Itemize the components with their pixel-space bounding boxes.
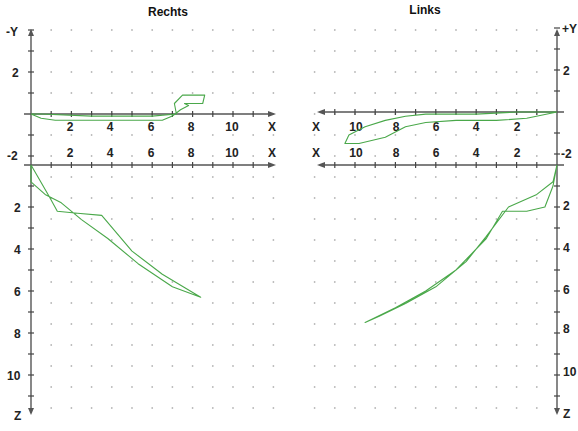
- chart-canvas: Rechts Links -Y 2 -2 2 4 6 8 10 X 2 4 6 …: [0, 0, 578, 431]
- links-ticks: [335, 28, 560, 396]
- links-y-tick-neg2: -2: [561, 147, 572, 161]
- trace-line: [365, 165, 557, 323]
- left-arrow-icon: [317, 109, 325, 115]
- rechts-x-tick: 2: [67, 146, 74, 160]
- rechts-x-tick: 6: [148, 146, 155, 160]
- links-x-tick: 6: [433, 146, 440, 160]
- rechts-y-tick-2: 2: [12, 66, 19, 80]
- links-z-tick: 4: [563, 241, 570, 255]
- links-z-tick: 6: [563, 283, 570, 297]
- links-z-tick: 2: [563, 199, 570, 213]
- links-x-tick: 10: [349, 146, 363, 160]
- rechts-x-tick: 8: [188, 120, 195, 134]
- right-arrow-icon: [268, 111, 276, 117]
- links-x-axis-name: X: [312, 120, 320, 134]
- rechts-x-tick: 10: [225, 120, 239, 134]
- links-z-tick: 8: [563, 322, 570, 336]
- links-panel: +Y 2 -2 X 10 8 6 4 2 X 10 8 6 4 2 2 4 6 …: [312, 22, 577, 421]
- rechts-x-axis-name: X: [268, 120, 276, 134]
- links-y-tick-2: 2: [563, 64, 570, 78]
- rechts-y-tick-neg2: -2: [7, 149, 18, 163]
- down-arrow-icon: [28, 408, 34, 415]
- trace-line: [345, 112, 557, 144]
- rechts-x-tick: 8: [188, 146, 195, 160]
- rechts-z-tick: 4: [14, 243, 21, 257]
- rechts-z-tick: 2: [14, 201, 21, 215]
- chart-title-rechts: Rechts: [148, 5, 188, 19]
- rechts-ticks: [28, 30, 253, 396]
- rechts-z-axis-name: Z: [14, 409, 21, 423]
- up-arrow-icon: [554, 29, 560, 36]
- rechts-x-tick: 10: [225, 146, 239, 160]
- trace-line: [31, 95, 205, 120]
- rechts-z-tick: 6: [14, 285, 21, 299]
- left-arrow-icon: [317, 162, 325, 168]
- rechts-z-tick: 8: [14, 327, 21, 341]
- rechts-panel: -Y 2 -2 2 4 6 8 10 X 2 4 6 8 10 X 2 4 6 …: [6, 25, 276, 423]
- chart-title-links: Links: [409, 3, 441, 17]
- links-x-tick: 4: [473, 120, 480, 134]
- rechts-x-axis-name: X: [268, 146, 276, 160]
- links-z-tick: 10: [563, 365, 577, 379]
- links-x-tick: 2: [514, 146, 521, 160]
- links-x-tick: 2: [514, 120, 521, 134]
- rechts-x-tick: 2: [67, 120, 74, 134]
- rechts-x-tick: 6: [148, 120, 155, 134]
- grid-dots: [50, 29, 537, 409]
- links-y-axis-name: +Y: [562, 22, 577, 36]
- down-arrow-icon: [554, 408, 560, 415]
- links-z-axis-name: Z: [563, 407, 570, 421]
- rechts-x-tick: 4: [107, 120, 114, 134]
- trace-line: [31, 165, 201, 297]
- links-x-axis-name: X: [312, 146, 320, 160]
- right-arrow-icon: [268, 162, 276, 168]
- links-x-tick: 8: [393, 146, 400, 160]
- rechts-x-tick: 4: [107, 146, 114, 160]
- rechts-y-axis-name: -Y: [6, 25, 18, 39]
- rechts-z-tick: 10: [7, 369, 21, 383]
- links-x-tick: 4: [473, 146, 480, 160]
